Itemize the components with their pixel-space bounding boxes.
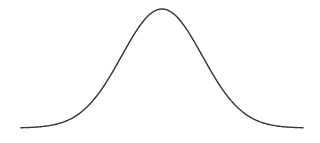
bell-curve-chart bbox=[0, 0, 320, 143]
normal-distribution-curve bbox=[21, 9, 303, 128]
plot-area bbox=[0, 0, 320, 143]
